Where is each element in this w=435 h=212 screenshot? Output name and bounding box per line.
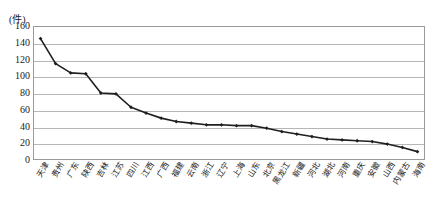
data-point-marker — [220, 123, 224, 127]
data-line — [41, 39, 418, 152]
data-point-marker — [400, 146, 404, 150]
x-axis-tick-label: 河北 — [306, 161, 321, 179]
y-axis-tick-label: 80 — [4, 88, 30, 98]
y-axis-tick-label: 140 — [4, 38, 30, 48]
data-point-marker — [250, 124, 254, 128]
x-axis-tick-label: 云南 — [186, 161, 201, 179]
y-axis-tick-label: 20 — [4, 138, 30, 148]
x-axis-tick-label: 江苏 — [110, 161, 125, 179]
data-point-marker — [265, 126, 269, 130]
x-axis-tick-label: 广西 — [156, 161, 171, 179]
data-point-marker — [355, 139, 359, 143]
x-axis-tick-label: 新疆 — [291, 161, 306, 179]
x-axis-tick-label: 四川 — [126, 161, 141, 179]
data-point-marker — [189, 121, 193, 125]
data-point-marker — [280, 130, 284, 134]
data-point-marker — [385, 142, 389, 146]
data-point-marker — [325, 137, 329, 141]
x-axis-tick-label: 重庆 — [352, 161, 367, 179]
x-axis-tick-label: 陕西 — [80, 161, 95, 179]
data-point-marker — [159, 116, 163, 120]
x-axis-tick-label: 辽宁 — [216, 161, 231, 179]
y-axis-tick-label: 40 — [4, 122, 30, 132]
x-axis-tick-label: 山东 — [246, 161, 261, 179]
x-axis-tick-labels: 天津贵州广东陕西吉林江苏四川江西广西福建云南浙江辽宁上海山东北京黑龙江新疆河北湖… — [33, 161, 425, 212]
data-point-marker — [204, 123, 208, 127]
x-axis-tick-label: 江西 — [141, 161, 156, 179]
x-axis-tick-label: 浙江 — [201, 161, 216, 179]
x-axis-tick-label: 贵州 — [50, 161, 65, 179]
x-axis-tick-label: 上海 — [231, 161, 246, 179]
data-point-marker — [340, 138, 344, 142]
data-point-marker — [416, 150, 420, 154]
y-axis-tick-label: 120 — [4, 55, 30, 65]
chart-root: (件) 160140120100806040200 天津贵州广东陕西吉林江苏四川… — [0, 0, 435, 212]
y-axis-tick-label: 60 — [4, 105, 30, 115]
x-axis-tick-label: 安徽 — [367, 161, 382, 179]
x-axis-tick-label: 海南 — [412, 161, 427, 179]
data-point-marker — [310, 135, 314, 139]
data-point-marker — [370, 140, 374, 144]
data-point-marker — [174, 120, 178, 124]
y-axis-tick-label: 100 — [4, 71, 30, 81]
x-axis-tick-label: 天津 — [35, 161, 50, 179]
x-axis-tick-label: 河南 — [337, 161, 352, 179]
y-axis-tick-labels: 160140120100806040200 — [0, 26, 30, 160]
x-axis-tick-label: 福建 — [171, 161, 186, 179]
x-axis-tick-label: 湖北 — [322, 161, 337, 179]
x-axis-tick-label: 吉林 — [95, 161, 110, 179]
series-line — [33, 26, 425, 160]
data-point-marker — [295, 132, 299, 136]
y-axis-tick-label: 0 — [4, 155, 30, 165]
y-axis-tick-label: 160 — [4, 21, 30, 31]
data-point-marker — [235, 124, 239, 128]
x-axis-tick-label: 广东 — [65, 161, 80, 179]
